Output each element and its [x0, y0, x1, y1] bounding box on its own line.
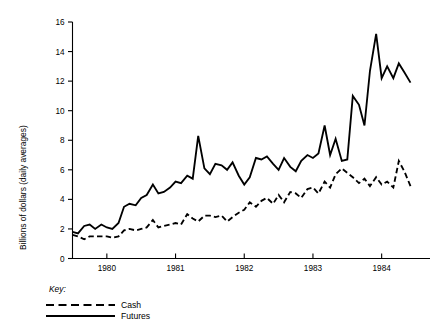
- y-tick-label: 0: [60, 255, 65, 264]
- series-line-futures: [73, 34, 411, 234]
- x-tick-label: 1980: [98, 264, 117, 273]
- chart-figure: Billions of dollars (daily averages) 024…: [0, 0, 438, 328]
- legend-label-cash: Cash: [121, 300, 141, 310]
- y-tick-label: 12: [55, 77, 65, 86]
- y-tick-label: 8: [60, 136, 65, 145]
- line-chart-svg: Billions of dollars (daily averages) 024…: [0, 0, 438, 328]
- y-tick-label: 14: [55, 48, 65, 57]
- y-axis-ticks: 0246810121416: [55, 18, 72, 264]
- x-tick-label: 1983: [304, 264, 323, 273]
- legend-label-futures: Futures: [121, 311, 150, 321]
- x-tick-label: 1981: [166, 264, 185, 273]
- legend-title: Key:: [49, 284, 66, 294]
- chart-legend: Key: Cash Futures: [46, 284, 150, 321]
- y-tick-label: 16: [55, 18, 65, 27]
- x-tick-label: 1982: [235, 264, 254, 273]
- series-line-cash: [73, 161, 411, 239]
- x-tick-label: 1984: [373, 264, 392, 273]
- y-axis-label: Billions of dollars (daily averages): [18, 125, 28, 250]
- x-axis-ticks: 19801981198219831984: [98, 254, 391, 273]
- y-tick-label: 6: [60, 166, 65, 175]
- y-tick-label: 2: [60, 225, 65, 234]
- y-tick-label: 4: [60, 195, 65, 204]
- y-tick-label: 10: [55, 107, 65, 116]
